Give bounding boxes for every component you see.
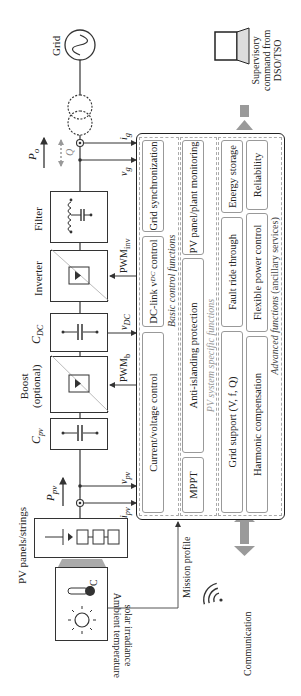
ppv-label: Ppv [44, 486, 59, 501]
boost-block [50, 356, 108, 413]
flexible-power-control: Flexible power control [246, 213, 268, 332]
pv-panels-block [34, 518, 128, 558]
po-label: Po [26, 149, 41, 160]
sun-icon [68, 606, 96, 634]
pv-specific-label: PV system specific functions [205, 258, 216, 453]
pv-plant-monitoring: PV panel/plant monitoring [182, 140, 204, 255]
energy-storage: Energy storage [221, 140, 243, 213]
mission-profile-label: Mission profile [181, 537, 192, 598]
filter-block [50, 191, 108, 243]
mppt: MPPT [182, 457, 204, 513]
pv-string-icon [35, 517, 129, 557]
fault-ride-through: Fault ride through [221, 217, 243, 327]
communication-label: Communication [242, 612, 253, 676]
pv-control-diagram: PV panels/strings Cpv Boost(optional) CD… [0, 0, 301, 696]
grid-support: Grid support (V, f, Q) [221, 331, 243, 513]
capacitor-icon [51, 312, 109, 351]
q-label: Q [64, 149, 75, 156]
boost-label: Boost(optional) [18, 365, 42, 408]
dc-link-control: DC-link vDC control [142, 236, 164, 327]
vpv-label: vpv [118, 472, 132, 484]
wifi-icon [199, 581, 223, 604]
lcl-filter-icon [51, 190, 109, 242]
vg-label: vg [118, 167, 132, 176]
laptop-icon [215, 28, 249, 64]
igbt-switch-icon [51, 249, 109, 301]
grid-label: Grid [50, 36, 62, 56]
igbt-switch-icon [51, 355, 109, 412]
reliability: Reliability [246, 140, 268, 210]
cdc-block [50, 313, 108, 352]
pwm-b-label: PWMb [118, 354, 132, 382]
ipv-label: ipv [118, 507, 132, 518]
cdc-label: CDC [30, 325, 47, 344]
harmonic-compensation: Harmonic compensation [246, 336, 268, 513]
anti-islanding-protection: Anti-islanding protection [182, 258, 204, 453]
ig-label: ig [118, 133, 132, 140]
cpv-label: Cpv [30, 428, 47, 444]
inverter-block [50, 250, 108, 302]
filter-label: Filter [32, 207, 44, 231]
supervisory-label: Supervisorycommand fromDSO/TSO [250, 30, 283, 91]
vdc-label: vDC [118, 314, 132, 330]
environment-box [55, 567, 108, 641]
inverter-label: Inverter [32, 261, 44, 296]
capacitor-icon [51, 417, 109, 449]
grid-synchronization: Grid synchronization [142, 140, 164, 232]
basic-control-label: Basic control functions [166, 236, 177, 327]
pv-panels-label: PV panels/strings [16, 507, 28, 584]
temp-unit-label: °C [88, 579, 99, 590]
environment-label: solar irradianceAmbient temperature [112, 593, 134, 678]
advanced-label: Advanced functions (ancillary services) [269, 196, 280, 396]
cpv-block [50, 418, 108, 450]
pwm-inv-label: PWMinv [118, 238, 132, 273]
current-voltage-control: Current/voltage control [142, 332, 164, 513]
sun-thermometer-icon [56, 566, 109, 640]
